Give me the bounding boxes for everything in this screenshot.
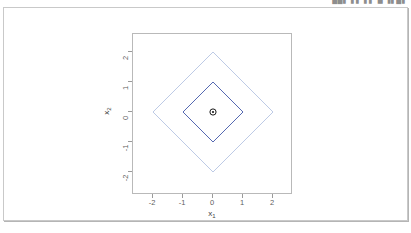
figure-container: x2 2 1 0 -1 -2 — [104, 26, 304, 221]
x-tick-label: 2 — [265, 199, 279, 207]
y-tick-label: -1 — [122, 141, 130, 155]
top-cutoff-toolbar-fragment: ▄▄▖ ▖▖ ▖▖▗▖▗▖▄▖ — [0, 0, 411, 7]
x-tick-label: -2 — [145, 199, 159, 207]
y-tick-label: 2 — [122, 51, 130, 65]
x-tick-label: -1 — [175, 199, 189, 207]
plot-svg — [133, 34, 292, 194]
y-axis-title: x2 — [102, 107, 112, 114]
top-fragment-text: ▄▄▖ ▖▖ ▖▖▗▖▗▖▄▖ — [332, 0, 407, 4]
y-axis-title-sub: 2 — [106, 107, 112, 110]
x-tick-label: 0 — [205, 199, 219, 207]
x-axis-title-sub: 1 — [212, 213, 215, 219]
y-tick-label: 0 — [122, 111, 130, 125]
x-axis-title: x1 — [132, 209, 292, 219]
page-bottom-margin — [0, 222, 411, 233]
document-panel: x2 2 1 0 -1 -2 — [3, 7, 408, 221]
plot-area — [132, 33, 292, 194]
y-tick-label: -2 — [122, 171, 130, 185]
y-tick-label: 1 — [122, 81, 130, 95]
origin-marker-dot — [212, 111, 214, 113]
x-tick-label: 1 — [235, 199, 249, 207]
y-axis-title-main: x — [102, 111, 111, 115]
